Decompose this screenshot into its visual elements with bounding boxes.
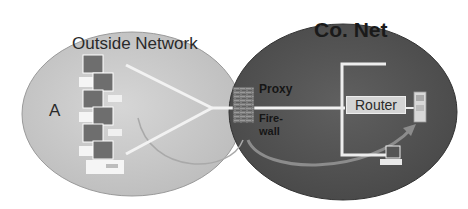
- outside-network-title: Outside Network: [72, 34, 198, 54]
- server-icon: [414, 92, 426, 122]
- company-network-title: Co. Net: [314, 18, 388, 42]
- proxy-label: Proxy: [259, 82, 292, 96]
- network-diagram: Outside Network A Co. Net Proxy Fire- wa…: [0, 0, 468, 209]
- router-label: Router: [346, 96, 406, 114]
- node-a-label: A: [49, 101, 60, 121]
- firewall-label: Fire- wall: [259, 112, 299, 138]
- firewall-icon: [233, 87, 254, 123]
